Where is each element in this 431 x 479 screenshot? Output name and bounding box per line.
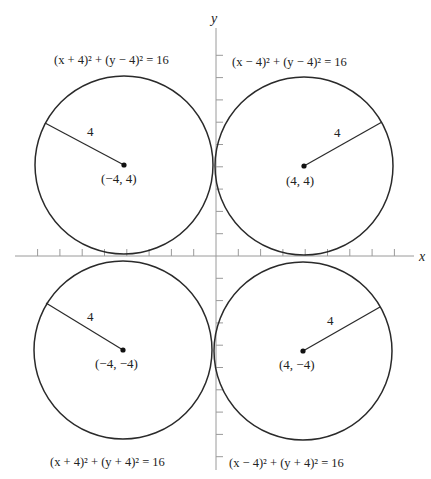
center-dot (121, 162, 126, 167)
radius-label: 4 (87, 124, 94, 139)
center-label: (−4, 4) (101, 171, 137, 186)
radius-line (303, 307, 380, 351)
radius-line (304, 122, 382, 166)
y-axis-label: y (209, 11, 218, 26)
circle-top-left: 4 (−4, 4) (x + 4)² + (y − 4)² = 16 (35, 53, 213, 254)
radius-line (46, 303, 123, 350)
circle-top-right: 4 (4, 4) (x − 4)² + (y − 4)² = 16 (215, 55, 393, 255)
x-axis-label: x (418, 249, 426, 264)
equation-label: (x + 4)² + (y − 4)² = 16 (54, 53, 169, 67)
radius-label: 4 (87, 309, 94, 324)
radius-label: 4 (334, 125, 341, 140)
equation-label: (x + 4)² + (y + 4)² = 16 (50, 455, 165, 469)
equation-label: (x − 4)² + (y + 4)² = 16 (229, 456, 344, 470)
equation-label: (x − 4)² + (y − 4)² = 16 (232, 55, 347, 69)
center-label: (4, −4) (279, 357, 315, 372)
center-dot (120, 347, 125, 352)
center-dot (300, 348, 305, 353)
circle-bottom-left: 4 (−4, −4) (x + 4)² + (y + 4)² = 16 (34, 261, 212, 469)
circle-bottom-right: 4 (4, −4) (x − 4)² + (y + 4)² = 16 (214, 262, 392, 470)
center-label: (−4, −4) (95, 356, 138, 371)
radius-label: 4 (327, 313, 334, 328)
four-circles-diagram: x y 4 (−4, 4) (x + 4)² + (y − 4)² = 16 4… (0, 0, 431, 479)
radius-line (45, 123, 124, 165)
center-dot (301, 163, 306, 168)
center-label: (4, 4) (286, 173, 314, 188)
